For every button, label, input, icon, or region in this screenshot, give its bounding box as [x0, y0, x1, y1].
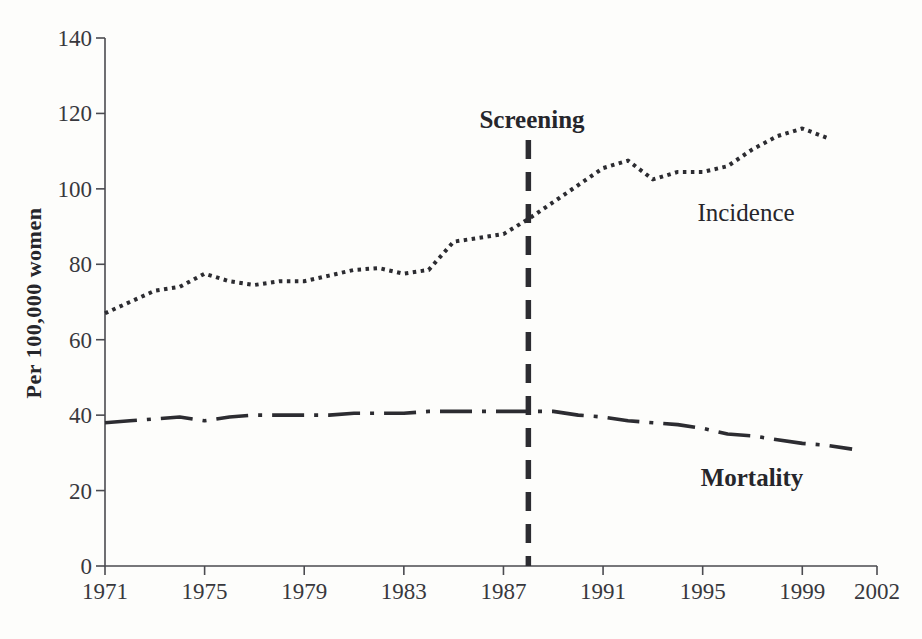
x-axis-tick-label: 1971 — [82, 579, 128, 604]
line-chart: 0204060801001201401971197519791983198719… — [0, 0, 922, 639]
x-axis-tick-label: 1995 — [680, 579, 726, 604]
y-axis-tick-label: 80 — [69, 252, 92, 277]
chart-figure: 0204060801001201401971197519791983198719… — [0, 0, 922, 639]
y-axis-tick-label: 100 — [58, 177, 93, 202]
x-axis-tick-label: 1979 — [281, 579, 327, 604]
x-axis-tick-label: 1987 — [480, 579, 526, 604]
screening-annotation-label: Screening — [479, 106, 584, 134]
y-axis-tick-label: 20 — [69, 479, 92, 504]
x-axis-tick-label: 1983 — [381, 579, 427, 604]
x-axis-tick-label: 2002 — [854, 579, 900, 604]
y-axis-tick-label: 60 — [69, 328, 92, 353]
y-axis-title: Per 100,000 women — [21, 208, 47, 399]
incidence-series-label: Incidence — [697, 199, 794, 227]
y-axis-tick-label: 120 — [58, 101, 93, 126]
mortality-series-label: Mortality — [701, 464, 804, 492]
y-axis-tick-label: 0 — [81, 554, 93, 579]
x-axis-tick-label: 1991 — [580, 579, 626, 604]
x-axis-tick-label: 1975 — [182, 579, 228, 604]
y-axis-tick-label: 40 — [69, 403, 92, 428]
mortality-line — [105, 411, 852, 449]
x-axis-tick-label: 1999 — [779, 579, 825, 604]
y-axis-tick-label: 140 — [58, 26, 93, 51]
